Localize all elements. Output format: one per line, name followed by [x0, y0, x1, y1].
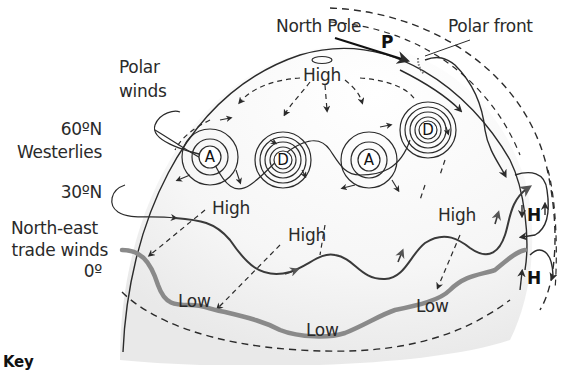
label-high-3: High [438, 205, 476, 225]
system-letter-d2: D [418, 120, 438, 140]
label-hadley-1: H [527, 205, 541, 225]
label-0deg: 0º [60, 261, 102, 281]
label-polar-winds-line1: Polar [119, 57, 160, 77]
label-high-2: High [288, 225, 326, 245]
label-low-3: Low [416, 296, 449, 316]
label-key: Key [3, 352, 33, 372]
label-p: P [381, 32, 393, 52]
label-polar-winds-line2: winds [119, 81, 167, 101]
label-westerlies: Westerlies [0, 142, 102, 162]
label-60n: 60ºN [40, 119, 102, 139]
label-polar-front: Polar front [448, 16, 533, 36]
label-high-1: High [212, 198, 250, 218]
label-polar-high: High [303, 65, 341, 85]
polar-front-leader [425, 40, 470, 56]
system-letter-a2: A [359, 150, 379, 170]
system-letter-d1: D [273, 150, 293, 170]
label-ne-trade-line2: trade winds [0, 240, 108, 260]
system-letter-a1: A [200, 147, 220, 167]
label-hadley-2: H [527, 268, 541, 288]
label-low-2: Low [306, 320, 339, 340]
label-30n: 30ºN [40, 182, 102, 202]
label-north-pole: North Pole [276, 16, 361, 36]
label-low-1: Low [178, 291, 211, 311]
label-ne-trade-line1: North-east [0, 218, 98, 238]
